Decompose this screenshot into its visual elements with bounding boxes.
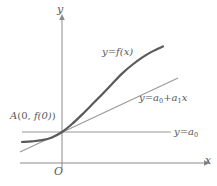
curve-equation-label: y=f(x) (102, 47, 133, 57)
constant-term-subscript: 0 (194, 131, 198, 139)
tangent-term2-subscript: 1 (178, 97, 182, 105)
curve-rhs: f(x) (116, 46, 133, 57)
figure-container: y x O y=f(x) y=a0+a1x y=a0 A(0, f(0)) (0, 0, 217, 186)
point-y-value: f(0) (34, 110, 52, 121)
constant-equals: = (180, 126, 188, 137)
constant-equation-label: y=a0 (174, 127, 198, 137)
tangent-term1-subscript: 0 (159, 97, 163, 105)
tangent-equation-label: y=a0+a1x (139, 93, 187, 103)
tangent-term2: a (172, 92, 178, 103)
point-comma: , (28, 110, 31, 121)
x-axis-label: x (205, 155, 211, 166)
origin-label: O (54, 166, 63, 177)
tangent-equals: = (145, 92, 153, 103)
y-axis-label: y (57, 4, 63, 15)
tangent-term2-variable: x (182, 92, 188, 103)
tangent-plus: + (163, 92, 171, 103)
curve-equals: = (108, 46, 116, 57)
point-close-paren: ) (52, 110, 56, 121)
point-label: A(0, f(0)) (10, 111, 56, 121)
